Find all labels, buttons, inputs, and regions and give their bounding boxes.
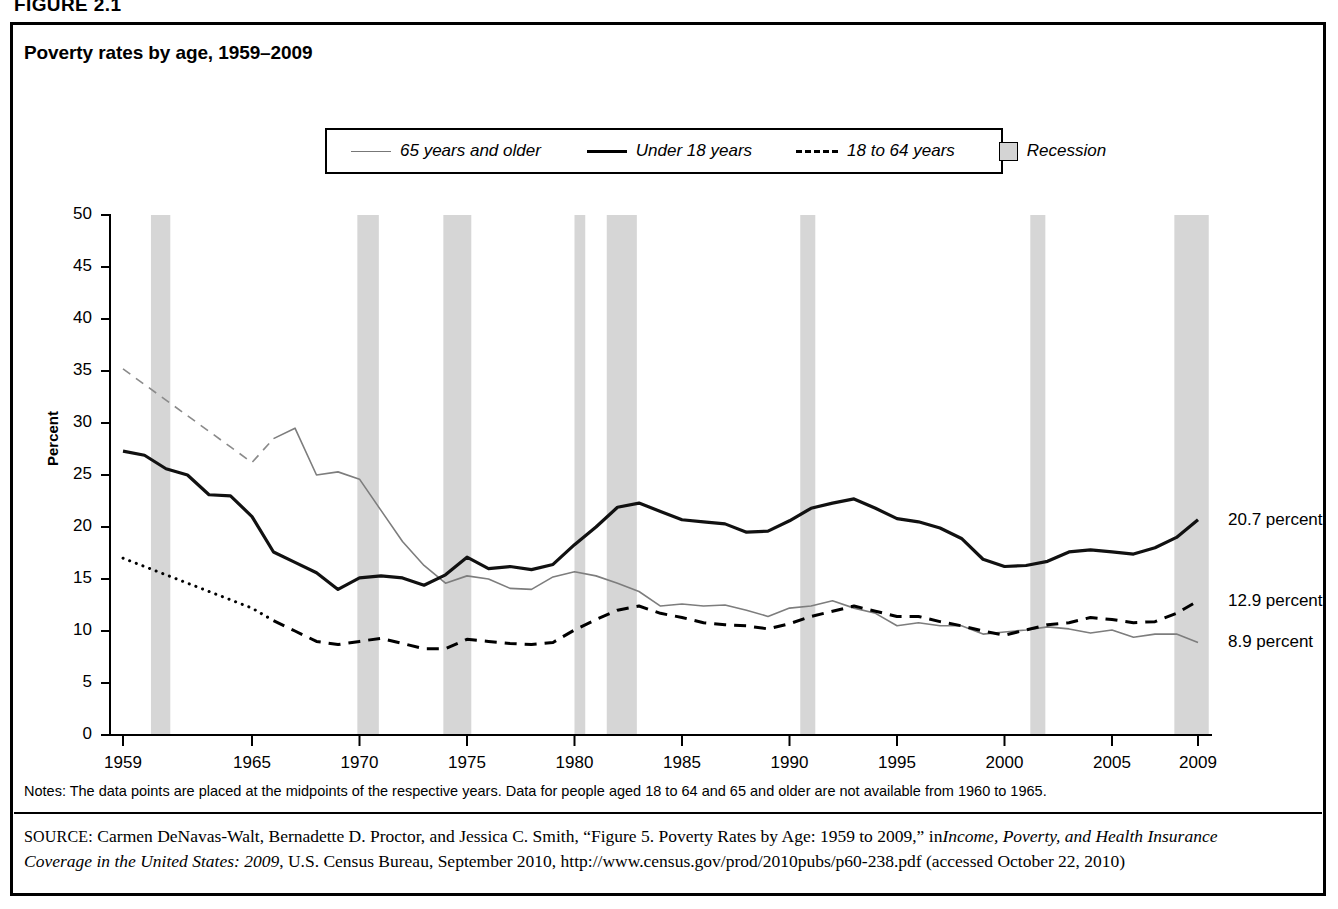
y-axis-tick-label: 20	[58, 516, 92, 536]
legend-label: Under 18 years	[636, 141, 752, 161]
legend-label: 65 years and older	[400, 141, 541, 161]
horizontal-divider	[14, 812, 1322, 814]
x-axis-tick-label: 1959	[88, 753, 158, 773]
legend-item-recession[interactable]: Recession	[999, 130, 1106, 172]
source-body-2: , U.S. Census Bureau, September 2010, ht…	[279, 851, 1125, 871]
x-axis-tick-label: 1985	[647, 753, 717, 773]
y-axis-tick-label: 30	[58, 412, 92, 432]
recession-band	[443, 215, 471, 735]
series-line-65-and-older	[274, 428, 1199, 642]
y-axis-tick-label: 35	[58, 360, 92, 380]
y-axis-tick-label: 25	[58, 464, 92, 484]
recession-band	[575, 215, 586, 735]
line-swatch-dashed-icon	[796, 150, 838, 153]
x-axis-tick-label: 1970	[325, 753, 395, 773]
recession-band	[800, 215, 815, 735]
legend-item-65-and-older[interactable]: 65 years and older	[351, 130, 541, 172]
y-axis-tick-label: 45	[58, 256, 92, 276]
recession-band	[357, 215, 379, 735]
line-swatch-thin-icon	[351, 151, 391, 152]
series-line-65-and-older-interpolated	[123, 369, 274, 463]
recession-band	[1030, 215, 1045, 735]
legend-item-under-18[interactable]: Under 18 years	[587, 130, 752, 172]
chart-legend: 65 years and older Under 18 years 18 to …	[325, 128, 1003, 174]
y-axis-tick-label: 10	[58, 620, 92, 640]
recession-box-icon	[999, 142, 1018, 161]
line-swatch-thick-icon	[587, 150, 627, 153]
x-axis-tick-label: 1965	[217, 753, 287, 773]
x-axis-tick-label: 2005	[1077, 753, 1147, 773]
y-axis-tick-label: 40	[58, 308, 92, 328]
y-axis-tick-label: 5	[58, 672, 92, 692]
legend-label: Recession	[1027, 141, 1106, 161]
recession-band	[1174, 215, 1208, 735]
series-end-label: 12.9 percent	[1228, 591, 1323, 611]
series-line-18-to-64-interpolated	[123, 558, 274, 620]
x-axis-tick-label: 2000	[970, 753, 1040, 773]
series-end-label: 20.7 percent	[1228, 510, 1323, 530]
figure-source: SOURCE: Carmen DeNavas-Walt, Bernadette …	[24, 824, 1264, 874]
recession-band	[607, 215, 637, 735]
x-axis-tick-label: 2009	[1163, 753, 1233, 773]
x-axis-tick-label: 1995	[862, 753, 932, 773]
source-body-1: Carmen DeNavas-Walt, Bernadette D. Proct…	[93, 826, 942, 846]
source-prefix: SOURCE:	[24, 828, 93, 845]
y-axis-tick-label: 50	[58, 204, 92, 224]
y-axis-tick-label: 15	[58, 568, 92, 588]
series-end-label: 8.9 percent	[1228, 632, 1313, 652]
x-axis-tick-label: 1980	[540, 753, 610, 773]
figure-notes: Notes: The data points are placed at the…	[24, 782, 1304, 802]
y-axis-tick-label: 0	[58, 724, 92, 744]
legend-label: 18 to 64 years	[847, 141, 955, 161]
legend-item-18-to-64[interactable]: 18 to 64 years	[796, 130, 955, 172]
x-axis-tick-label: 1975	[432, 753, 502, 773]
recession-band	[151, 215, 170, 735]
x-axis-tick-label: 1990	[755, 753, 825, 773]
